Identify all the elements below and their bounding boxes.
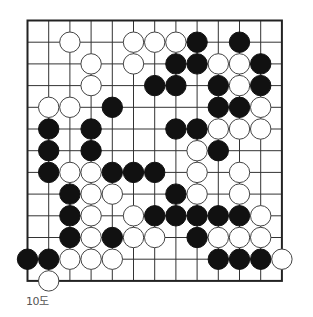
black-stone [60,227,80,247]
white-stone [229,75,249,95]
white-stone [208,54,228,74]
black-stone [229,206,249,226]
white-stone [123,32,143,52]
white-stone [251,119,271,139]
white-stone [272,249,292,269]
black-stone [81,119,101,139]
black-stone [39,249,59,269]
white-stone [102,184,122,204]
black-stone [17,249,37,269]
black-stone [166,206,186,226]
black-stone [208,75,228,95]
black-stone [251,75,271,95]
black-stone [251,54,271,74]
black-stone [229,32,249,52]
white-stone [229,119,249,139]
white-stone [229,227,249,247]
white-stone [251,97,271,117]
black-stone [187,32,207,52]
white-stone [81,75,101,95]
black-stone [39,162,59,182]
black-stone [251,249,271,269]
black-stone [123,162,143,182]
white-stone [39,271,59,291]
black-stone [229,249,249,269]
black-stone [208,206,228,226]
white-stone [208,227,228,247]
black-stone [39,119,59,139]
black-stone [60,206,80,226]
white-stone [123,227,143,247]
white-stone [81,54,101,74]
white-stone [123,54,143,74]
black-stone [39,141,59,161]
white-stone [81,206,101,226]
white-stone [229,184,249,204]
black-stone [187,119,207,139]
white-stone [208,119,228,139]
black-stone [187,54,207,74]
black-stone [145,162,165,182]
black-stone [166,75,186,95]
white-stone [81,184,101,204]
black-stone [208,141,228,161]
black-stone [102,227,122,247]
black-stone [60,184,80,204]
white-stone [251,206,271,226]
white-stone [102,249,122,269]
black-stone [166,54,186,74]
black-stone [81,141,101,161]
white-stone [145,227,165,247]
white-stone [229,54,249,74]
black-stone [166,119,186,139]
white-stone [123,206,143,226]
white-stone [81,227,101,247]
black-stone [166,184,186,204]
white-stone [166,32,186,52]
white-stone [60,162,80,182]
white-stone [81,249,101,269]
black-stone [102,162,122,182]
white-stone [60,32,80,52]
black-stone [208,97,228,117]
white-stone [187,162,207,182]
go-board [0,0,313,317]
black-stone [187,227,207,247]
black-stone [145,206,165,226]
white-stone [39,97,59,117]
white-stone [187,184,207,204]
black-stone [187,206,207,226]
white-stone [60,97,80,117]
black-stone [208,249,228,269]
black-stone [145,75,165,95]
white-stone [229,162,249,182]
black-stone [102,97,122,117]
white-stone [60,249,80,269]
white-stone [145,32,165,52]
white-stone [251,227,271,247]
white-stone [81,162,101,182]
black-stone [229,97,249,117]
white-stone [187,141,207,161]
diagram-caption: 10도 [26,292,49,308]
